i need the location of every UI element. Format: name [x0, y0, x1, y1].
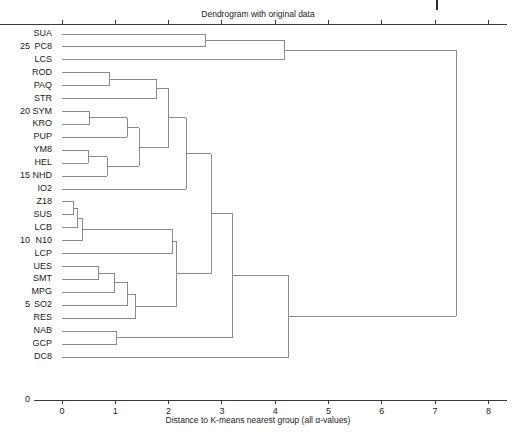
leaf-label-lcp: LCP — [0, 248, 52, 258]
x-tick-label: 1 — [103, 406, 127, 416]
dendrogram-figure: Dendrogram with original data Distance t… — [0, 0, 516, 433]
x-axis-label: Distance to K-means nearest group (all α… — [0, 415, 516, 425]
leaf-label-nab: NAB — [0, 325, 52, 335]
x-tick-label: 6 — [370, 406, 394, 416]
leaf-label-smt: SMT — [0, 273, 52, 283]
leaf-index-mark: 15 — [0, 170, 30, 180]
leaf-label-hel: HEL — [0, 157, 52, 167]
leaf-label-lcs: LCS — [0, 54, 52, 64]
leaf-label-sus: SUS — [0, 209, 52, 219]
x-tick-label: 3 — [210, 406, 234, 416]
leaf-index-mark: 5 — [0, 299, 30, 309]
x-tick-label: 8 — [476, 406, 500, 416]
dendrogram-plot — [0, 0, 516, 433]
leaf-label-kro: KRO — [0, 118, 52, 128]
leaf-label-paq: PAQ — [0, 80, 52, 90]
leaf-label-gcp: GCP — [0, 338, 52, 348]
leaf-index-mark: 25 — [0, 41, 30, 51]
leaf-index-mark: 10 — [0, 235, 30, 245]
x-tick-label: 2 — [157, 406, 181, 416]
leaf-label-dc8: DC8 — [0, 351, 52, 361]
leaf-label-sua: SUA — [0, 28, 52, 38]
x-tick-label: 7 — [423, 406, 447, 416]
leaf-label-io2: IO2 — [0, 183, 52, 193]
leaf-label-res: RES — [0, 312, 52, 322]
x-tick-label: 0 — [50, 406, 74, 416]
leaf-label-z18: Z18 — [0, 196, 52, 206]
leaf-label-str: STR — [0, 93, 52, 103]
leaf-label-pup: PUP — [0, 131, 52, 141]
leaf-index-mark: 20 — [0, 106, 30, 116]
leaf-label-rod: ROD — [0, 67, 52, 77]
leaf-label-mpg: MPG — [0, 286, 52, 296]
leaf-label-ues: UES — [0, 261, 52, 271]
x-tick-label: 4 — [263, 406, 287, 416]
x-tick-label: 5 — [317, 406, 341, 416]
y-index-zero-label: 0 — [0, 394, 30, 404]
leaf-label-ym8: YM8 — [0, 144, 52, 154]
leaf-label-lcb: LCB — [0, 222, 52, 232]
